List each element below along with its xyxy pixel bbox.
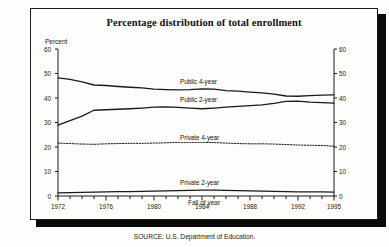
y-tick-label-left: 20 [37, 144, 51, 151]
y-tick-label-right: 10 [339, 168, 353, 175]
series-label: Private 2-year [178, 179, 221, 187]
x-axis-title: Fall of year [31, 199, 377, 206]
y-tick-label-left: 30 [37, 119, 51, 126]
y-tick-label-left: 10 [37, 168, 51, 175]
chart-frame: Percentage distribution of total enrollm… [30, 8, 378, 220]
y-tick-label-right: 50 [339, 70, 353, 77]
plot-svg [31, 9, 379, 221]
series-line [58, 142, 334, 146]
series-label: Public 4-year [178, 78, 219, 86]
y-tick-label-left: 40 [37, 95, 51, 102]
series-line [58, 101, 334, 125]
series-label: Private 4-year [178, 134, 221, 142]
y-tick-label-right: 30 [339, 119, 353, 126]
plot-area: 0102030405060010203040506019721976198019… [31, 9, 379, 221]
series-label: Public 2-year [178, 96, 219, 104]
y-tick-label-left: 60 [37, 46, 51, 53]
y-tick-label-right: 20 [339, 144, 353, 151]
y-tick-label-right: 40 [339, 95, 353, 102]
y-tick-label-left: 50 [37, 70, 51, 77]
chart-figure: Percentage distribution of total enrollm… [0, 0, 389, 247]
y-tick-label-right: 60 [339, 46, 353, 53]
series-line [58, 190, 334, 193]
source-note: SOURCE: U.S. Department of Education. [0, 233, 389, 240]
